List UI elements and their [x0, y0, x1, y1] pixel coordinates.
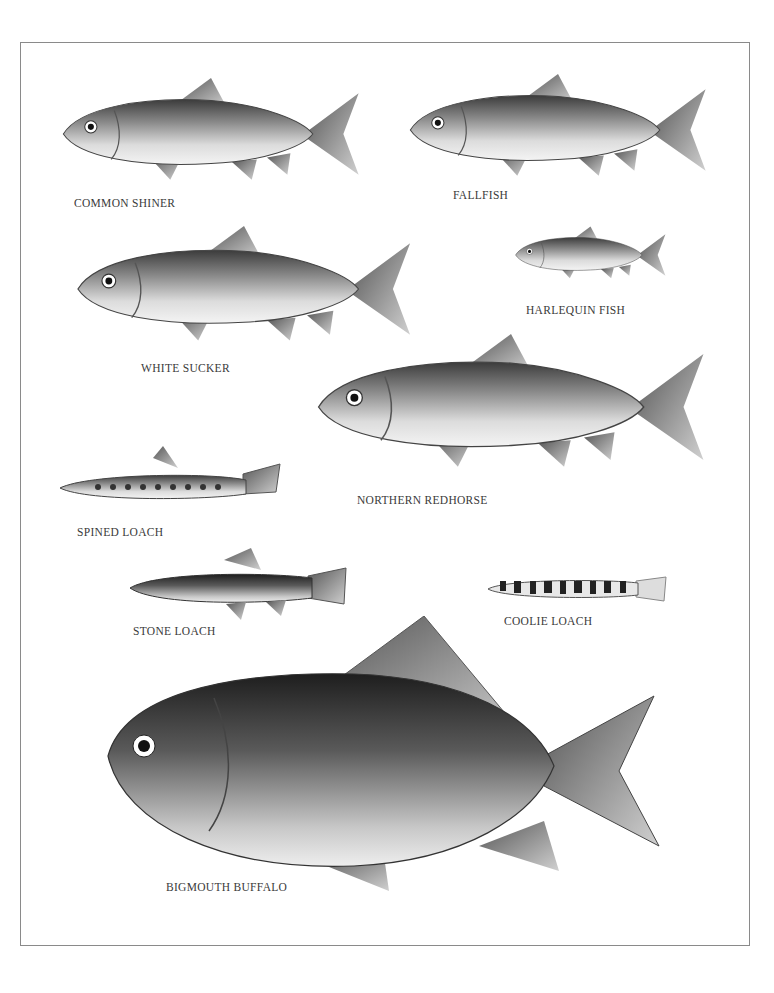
common-shiner-illustration — [55, 78, 367, 190]
spined-loach-illustration — [58, 446, 283, 518]
northern-redhorse-label: NORTHERN REDHORSE — [357, 494, 488, 506]
northern-redhorse-illustration — [307, 334, 715, 480]
harlequin-fish-label: HARLEQUIN FISH — [526, 304, 625, 316]
white-sucker-label: WHITE SUCKER — [141, 362, 230, 374]
coolie-loach-illustration — [486, 571, 668, 607]
stone-loach-illustration — [126, 546, 350, 622]
fallfish-illustration — [402, 74, 714, 186]
bigmouth-buffalo-illustration — [104, 616, 660, 898]
common-shiner-label: COMMON SHINER — [74, 197, 175, 209]
spined-loach-label: SPINED LOACH — [77, 526, 163, 538]
fallfish-label: FALLFISH — [453, 189, 508, 201]
bigmouth-buffalo-label: BIGMOUTH BUFFALO — [166, 881, 287, 893]
harlequin-fish-illustration — [513, 224, 668, 286]
